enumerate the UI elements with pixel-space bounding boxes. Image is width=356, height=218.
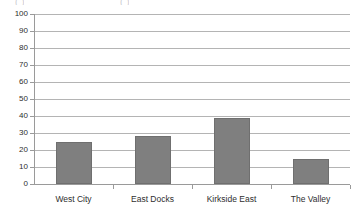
y-axis-label-text: 70 xyxy=(2,61,28,69)
y-axis-tick-0 xyxy=(30,184,35,185)
y-axis-label-80: 80 xyxy=(0,44,28,52)
x-axis-category-label: Kirkside East xyxy=(192,194,271,204)
y-axis-label-10: 10 xyxy=(0,163,28,171)
gridline-90 xyxy=(34,31,350,32)
y-axis-label-text: 100 xyxy=(2,10,28,18)
y-axis-label-20: 20 xyxy=(0,146,28,154)
y-axis-label-40: 40 xyxy=(0,112,28,120)
bar-kirkside-east xyxy=(214,118,250,184)
gridline-100 xyxy=(34,14,350,15)
y-axis-tick-90 xyxy=(30,31,35,32)
gridline-60 xyxy=(34,82,350,83)
y-axis-label-70: 70 xyxy=(0,61,28,69)
gridline-40 xyxy=(34,116,350,117)
y-axis-tick-10 xyxy=(30,167,35,168)
y-axis-tick-50 xyxy=(30,99,35,100)
x-axis-tick-2 xyxy=(192,185,193,189)
y-axis-label-100: 100 xyxy=(0,10,28,18)
y-axis-label-text: 10 xyxy=(2,163,28,171)
gridline-30 xyxy=(34,133,350,134)
bar-the-valley xyxy=(293,159,329,185)
y-axis-tick-80 xyxy=(30,48,35,49)
gridline-50 xyxy=(34,99,350,100)
bar-east-docks xyxy=(135,136,171,184)
y-axis-label-text: 30 xyxy=(2,129,28,137)
y-axis-label-30: 30 xyxy=(0,129,28,137)
y-axis-tick-70 xyxy=(30,65,35,66)
y-axis-tick-40 xyxy=(30,116,35,117)
bar-west-city xyxy=(56,142,92,185)
y-axis-label-0: 0 xyxy=(0,180,28,188)
x-axis-tick-1 xyxy=(113,185,114,189)
y-axis-tick-30 xyxy=(30,133,35,134)
y-axis-label-50: 50 xyxy=(0,95,28,103)
x-axis-category-label: West City xyxy=(34,194,113,204)
y-axis-tick-100 xyxy=(30,14,35,15)
y-axis-label-text: 50 xyxy=(2,95,28,103)
y-axis-label-text: 20 xyxy=(2,146,28,154)
plot-area: 0102030405060708090100West CityEast Dock… xyxy=(0,0,356,218)
gridline-70 xyxy=(34,65,350,66)
y-axis-label-90: 90 xyxy=(0,27,28,35)
y-axis-tick-60 xyxy=(30,82,35,83)
y-axis-label-text: 60 xyxy=(2,78,28,86)
y-axis-label-text: 90 xyxy=(2,27,28,35)
gridline-80 xyxy=(34,48,350,49)
x-axis-category-label: The Valley xyxy=(271,194,350,204)
y-axis-label-text: 80 xyxy=(2,44,28,52)
y-axis-label-text: 40 xyxy=(2,112,28,120)
y-axis-label-60: 60 xyxy=(0,78,28,86)
x-axis-tick-4 xyxy=(350,185,351,189)
x-axis-category-label: East Docks xyxy=(113,194,192,204)
x-axis-tick-3 xyxy=(271,185,272,189)
bar-chart: ( ) ( ) 0102030405060708090100West CityE… xyxy=(0,0,356,218)
y-axis-tick-20 xyxy=(30,150,35,151)
y-axis-label-text: 0 xyxy=(2,180,28,188)
